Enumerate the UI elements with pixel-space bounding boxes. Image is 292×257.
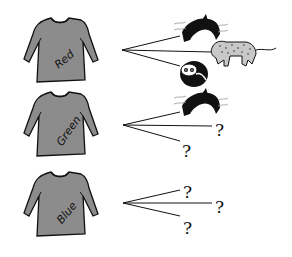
dolphin-icon bbox=[174, 14, 228, 42]
branch-lines bbox=[123, 190, 212, 216]
shirt-animal-diagram: Red bbox=[0, 0, 292, 257]
row-red: Red bbox=[24, 14, 276, 87]
question-mark: ? bbox=[215, 197, 224, 217]
row-green: Green ? ? bbox=[24, 88, 228, 161]
leopard-icon bbox=[211, 41, 276, 66]
question-mark: ? bbox=[183, 218, 192, 238]
row-blue: Blue ? ? ? bbox=[24, 172, 224, 238]
branch-lines bbox=[123, 112, 212, 141]
shirt-blue: Blue bbox=[24, 172, 98, 236]
dolphin-icon bbox=[174, 88, 228, 116]
branch-lines bbox=[122, 36, 212, 66]
question-mark: ? bbox=[183, 182, 192, 202]
shirt-green: Green bbox=[24, 92, 98, 156]
shirt-red: Red bbox=[24, 18, 98, 82]
question-mark: ? bbox=[182, 141, 191, 161]
question-mark: ? bbox=[215, 120, 224, 140]
panda-icon bbox=[180, 61, 208, 87]
